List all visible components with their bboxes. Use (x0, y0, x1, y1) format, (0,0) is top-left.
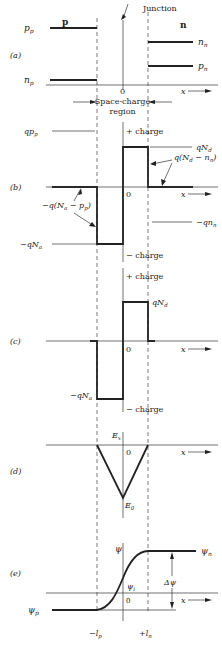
panel-b-charge-profile (52, 147, 193, 244)
minus-lp-label: −lp (89, 629, 102, 640)
delta-psi-label: Δψ (163, 578, 177, 587)
q-Nd-minus-nn-arrowhead-1 (150, 161, 156, 166)
panel-d-origin: 0 (126, 448, 131, 457)
panel-b-plus-charge: + charge (126, 127, 164, 136)
panel-a-x-arrowhead (205, 89, 212, 93)
panel-c-plus-charge: + charge (126, 272, 164, 281)
q-Nd-minus-nn-label: q(Nd − nn) (174, 153, 216, 163)
pn-junction-diagram: Junction p n (a) pp np nn pn 0 x Space-c… (0, 0, 222, 646)
panel-c-charge-profile (90, 302, 155, 399)
plus-ln-label: +ln (139, 629, 152, 639)
panel-c-x-arrowhead (205, 347, 212, 351)
E0-label: E0 (124, 501, 135, 511)
panel-d-x-arrowhead (205, 450, 212, 454)
q-Nd-minus-nn-arrowhead-2 (161, 179, 166, 186)
panel-b-origin: 0 (126, 190, 131, 199)
panel-b-label: (b) (10, 183, 21, 192)
nn-label: nn (198, 37, 208, 48)
panel-c-origin: 0 (126, 345, 131, 354)
panel-d-x-label: x (181, 448, 186, 457)
q-Nd-minus-nn-pointer-2 (163, 163, 172, 183)
panel-b-x-label: x (181, 190, 186, 199)
qNd-label: qNd (196, 143, 212, 153)
Na-pp-arrowhead-1 (78, 188, 82, 195)
pn-label: pn (198, 61, 208, 72)
psi-n-label: ψn (201, 546, 212, 557)
space-charge-label-2: region (109, 107, 135, 116)
minus-qNa-label: −qNa (20, 240, 42, 250)
panel-d-field-profile (97, 445, 148, 498)
junction-label: Junction (142, 4, 177, 13)
minus-qnn-label: −qnn (196, 218, 217, 228)
panel-e-potential: ψ 0 x Δψ ψn ψp ψi (e) −lp +ln (10, 543, 218, 640)
panel-b-charge-density-actual: qpp + charge qNd 0 x (b) q(Nd − nn) −q(N… (10, 122, 218, 262)
p-region-label: p (62, 17, 68, 27)
panel-c-minus-charge: − charge (126, 405, 164, 414)
panel-a-x-label: x (181, 87, 186, 96)
panel-d-electric-field: Ex 0 x E0 (d) (10, 431, 218, 518)
panel-c-charge-density-approx: + charge qNd 0 x (c) −qNa − charge (10, 268, 218, 414)
panel-e-label: (e) (10, 569, 21, 578)
delta-psi-arrowhead-up (170, 552, 174, 559)
panel-e-origin: 0 (126, 597, 130, 605)
np-label: np (24, 75, 34, 87)
psi-p-label: ψp (28, 605, 39, 617)
panel-b-x-arrowhead (205, 192, 212, 196)
qpp-label: qpp (24, 127, 38, 138)
panel-c-x-label: x (181, 345, 186, 354)
pp-label: pp (24, 23, 34, 35)
n-region-label: n (180, 20, 187, 30)
panel-c-minus-qNa-label: −qNa (70, 391, 92, 401)
psi-axis-label: ψ (115, 544, 123, 554)
panel-b-minus-charge: − charge (126, 251, 164, 260)
Na-pp-pointer-1 (74, 190, 80, 201)
panel-a-label: (a) (10, 51, 21, 60)
panel-a-origin: 0 (120, 87, 125, 96)
panel-c-label: (c) (10, 337, 21, 346)
Na-pp-arrowhead-2 (89, 222, 96, 227)
space-charge-label-1: Space-charge (95, 97, 151, 106)
panel-c-qNd-label: qNd (152, 298, 168, 308)
panel-a-carrier-concentration: Junction p n (a) pp np nn pn 0 x Space-c… (10, 4, 218, 116)
panel-d-label: (d) (10, 467, 21, 476)
minus-q-Na-minus-pp-label: −q(Na − pp) (42, 201, 91, 212)
panel-e-x-label: x (181, 596, 186, 605)
panel-e-x-arrowhead (205, 598, 212, 602)
junction-arrowhead (121, 14, 126, 20)
psi-i-label: ψi (127, 582, 135, 592)
Ex-label: Ex (111, 431, 122, 441)
delta-psi-arrowhead-down (170, 602, 174, 609)
